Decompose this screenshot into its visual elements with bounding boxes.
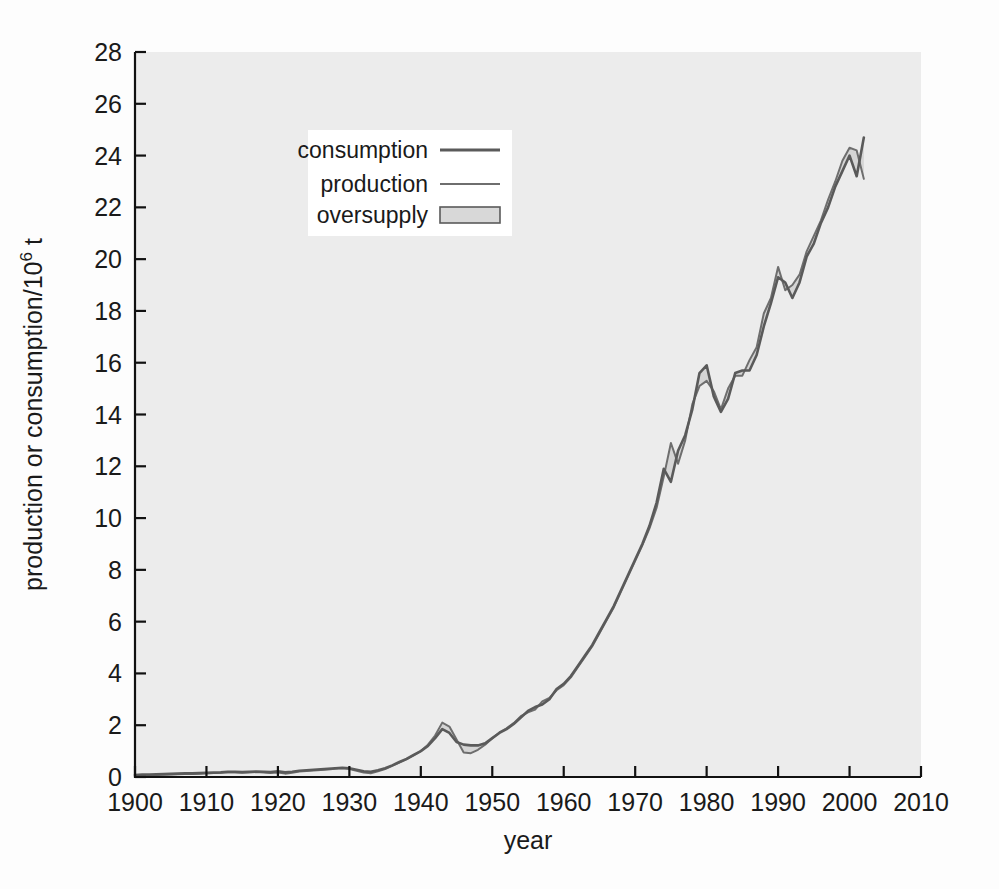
x-tick-label: 1940 (393, 788, 449, 816)
y-tick-label: 6 (108, 608, 122, 636)
y-tick-label: 24 (94, 142, 122, 170)
y-tick-label: 4 (108, 659, 122, 687)
x-tick-label: 1970 (607, 788, 663, 816)
legend-label-production: production (321, 171, 428, 197)
y-axis-title: production or consumption/106 t (17, 238, 47, 591)
y-tick-label: 10 (94, 504, 122, 532)
y-tick-label: 28 (94, 38, 122, 66)
y-tick-label: 18 (94, 297, 122, 325)
y-tick-label: 22 (94, 193, 122, 221)
x-axis-title: year (504, 826, 553, 854)
x-tick-label: 1980 (679, 788, 735, 816)
x-tick-label: 1990 (750, 788, 806, 816)
legend-label-oversupply: oversupply (317, 202, 429, 228)
x-tick-label: 1910 (179, 788, 235, 816)
x-tick-label: 1930 (322, 788, 378, 816)
x-tick-label: 1960 (536, 788, 592, 816)
y-axis-title-unit: t (19, 238, 47, 252)
y-tick-label: 20 (94, 245, 122, 273)
y-tick-label: 0 (108, 763, 122, 791)
plot-background (135, 52, 921, 777)
x-tick-label: 2010 (893, 788, 949, 816)
chart-figure: 1900191019201930194019501960197019801990… (0, 0, 999, 889)
x-tick-label: 2000 (822, 788, 878, 816)
chart-legend: consumptionproductionoversupply (298, 130, 512, 236)
x-tick-label: 1950 (464, 788, 520, 816)
y-tick-label: 12 (94, 452, 122, 480)
x-tick-label: 1920 (250, 788, 306, 816)
y-tick-label: 2 (108, 711, 122, 739)
y-tick-label: 26 (94, 90, 122, 118)
y-axis-title-base: production or consumption/10 (19, 262, 47, 591)
y-tick-label: 8 (108, 556, 122, 584)
y-tick-label: 16 (94, 349, 122, 377)
line-chart: 1900191019201930194019501960197019801990… (0, 0, 999, 889)
legend-label-consumption: consumption (298, 137, 428, 163)
y-tick-label: 14 (94, 401, 122, 429)
y-axis-title-superscript: 6 (17, 252, 36, 261)
legend-swatch-oversupply (440, 207, 500, 223)
x-tick-label: 1900 (107, 788, 163, 816)
y-axis-title-text: production or consumption/106 t (17, 238, 47, 591)
